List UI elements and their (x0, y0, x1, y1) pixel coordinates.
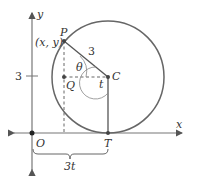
point-P-coord-label: (x, y) (35, 36, 63, 49)
cycloid-diagram: y x 3 O P (x, y) Q C T 3 θ t 3t (0, 0, 210, 180)
y-tick-label: 3 (15, 70, 22, 83)
angle-theta-label: θ (76, 61, 83, 74)
point-Q-label: Q (66, 79, 75, 92)
arc-length-label: 3t (64, 160, 76, 173)
radius-PC (64, 41, 108, 77)
x-axis-label: x (176, 118, 183, 131)
point-T-label: T (104, 137, 113, 150)
brace-3t (33, 149, 108, 159)
point-O (30, 131, 35, 136)
point-C-label: C (112, 70, 121, 83)
origin-label: O (36, 137, 45, 150)
angle-t-arc (80, 67, 108, 99)
radius-label: 3 (88, 45, 95, 58)
angle-t-label: t (99, 78, 104, 91)
point-C (106, 75, 110, 79)
y-axis-label: y (36, 8, 44, 21)
point-T (106, 131, 110, 135)
